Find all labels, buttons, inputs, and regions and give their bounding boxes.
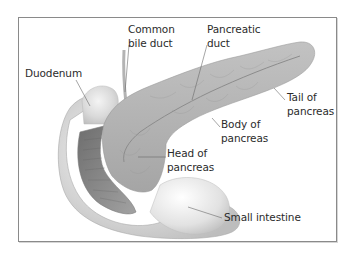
label-duodenum: Duodenum: [25, 66, 82, 80]
label-pancreatic-duct: Pancreatic duct: [207, 22, 261, 50]
label-small-intestine: Small intestine: [224, 210, 301, 224]
label-common-bile-duct: Common bile duct: [128, 22, 175, 50]
label-tail-of-pancreas: Tail of pancreas: [287, 90, 334, 118]
label-body-of-pancreas: Body of pancreas: [221, 117, 268, 145]
leader-body: [212, 118, 220, 127]
common-bile-duct-shape: [124, 50, 126, 104]
leader-tail: [274, 88, 285, 100]
label-head-of-pancreas: Head of pancreas: [167, 146, 214, 174]
leader-common-bile-duct: [125, 45, 129, 92]
